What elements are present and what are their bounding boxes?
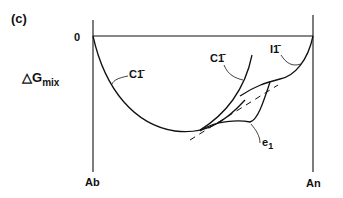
c1-left-leader [112, 76, 128, 84]
diagram-canvas [0, 0, 343, 198]
y-axis-label: △Gmix [22, 71, 59, 84]
c1-right-label: C1̄ [210, 53, 224, 64]
i1-leader [281, 55, 301, 65]
y-axis-label-sub: mix [42, 77, 59, 88]
panel-label: (c) [11, 12, 27, 25]
e1-label-sub: 1 [268, 141, 273, 151]
x-left-end-label: Ab [85, 177, 100, 188]
common-tangent [190, 85, 278, 140]
zero-tick-label: 0 [74, 32, 80, 43]
i1-label: I1̄ [270, 44, 279, 55]
e1-label: e1 [262, 137, 273, 148]
c1-right-leader [224, 65, 243, 80]
x-right-end-label: An [306, 178, 321, 189]
e1-leader [251, 124, 260, 143]
y-axis-label-main: △G [22, 70, 42, 85]
c1-left-label: C1̄ [129, 69, 143, 80]
c1-steep-branch [200, 55, 252, 130]
c1-parabola [93, 36, 245, 132]
